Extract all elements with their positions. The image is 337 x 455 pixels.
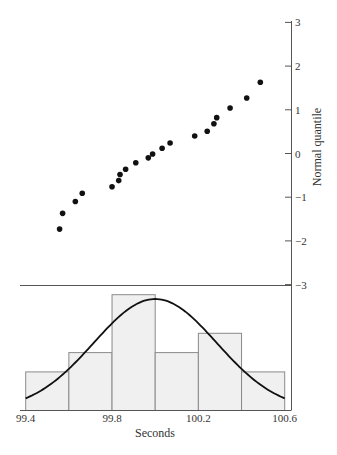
data-point: [57, 226, 63, 232]
histogram-bars: [26, 295, 285, 411]
y-tick-label: 0: [295, 148, 301, 160]
data-point: [227, 105, 233, 111]
data-points: [57, 79, 263, 231]
data-point: [258, 79, 264, 85]
data-point: [214, 115, 220, 121]
data-point: [79, 190, 85, 196]
histogram: 99.499.8100.2100.6 Seconds: [16, 295, 298, 440]
y-tick-label: −2: [295, 235, 307, 247]
data-point: [60, 211, 66, 217]
x-axis-label: Seconds: [135, 426, 175, 440]
data-point: [167, 140, 173, 146]
x-tick-label: 99.4: [16, 412, 36, 424]
data-point: [116, 178, 122, 184]
data-point: [159, 145, 165, 151]
y-tick-label: 2: [295, 60, 301, 72]
data-point: [133, 160, 139, 166]
histogram-bar: [242, 372, 285, 411]
histogram-bar: [26, 372, 69, 411]
data-point: [73, 199, 79, 205]
x-axis-ticks: 99.499.8100.2100.6: [16, 412, 298, 424]
normal-quantile-plot: 3210−1−2−3 Normal quantile: [20, 16, 324, 410]
y-tick-label: −3: [295, 279, 307, 291]
data-point: [244, 95, 250, 101]
y-tick-label: 3: [295, 16, 301, 28]
data-point: [150, 151, 156, 157]
histogram-bar: [198, 333, 241, 410]
y-axis-label: Normal quantile: [310, 108, 324, 186]
x-tick-label: 99.8: [102, 412, 122, 424]
y-tick-label: 1: [295, 104, 301, 116]
data-point: [204, 128, 210, 134]
data-point: [145, 155, 151, 161]
x-tick-label: 100.6: [272, 412, 297, 424]
y-axis-ticks: 3210−1−2−3: [285, 16, 307, 290]
histogram-bar: [112, 295, 155, 411]
data-point: [211, 121, 217, 127]
figure-caption-cropped: [4, 446, 334, 455]
data-point: [117, 172, 123, 178]
data-point: [109, 184, 115, 190]
data-point: [192, 133, 198, 139]
y-tick-label: −1: [295, 191, 307, 203]
data-point: [123, 166, 129, 172]
histogram-bar: [155, 353, 198, 411]
x-tick-label: 100.2: [186, 412, 211, 424]
figure: 3210−1−2−3 Normal quantile 99.499.8100.2…: [0, 0, 337, 455]
